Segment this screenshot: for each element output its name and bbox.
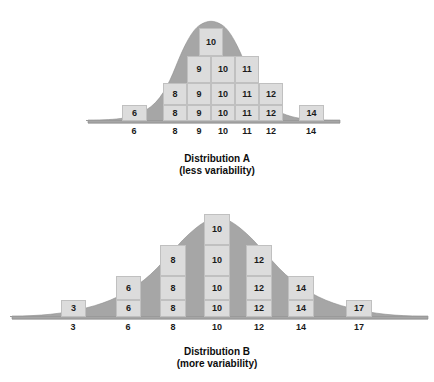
axis-tick-label: 8 [170,323,175,332]
distribution-b-caption: Distribution B (more variability) [0,346,434,370]
distribution-a-caption: Distribution A (less variability) [0,153,434,177]
distribution-a-caption-title: Distribution A [184,153,250,164]
data-block: 11 [235,56,259,83]
data-block: 3 [61,300,86,317]
data-block: 12 [246,300,272,317]
axis-tick-label: 10 [212,323,222,332]
data-block: 10 [204,276,230,300]
axis-tick-label: 11 [242,127,252,136]
data-block: 10 [204,300,230,317]
axis-tick-label: 12 [266,127,276,136]
data-block: 6 [122,105,147,121]
data-block: 10 [204,214,230,245]
axis-tick-label: 3 [70,323,75,332]
data-block: 14 [288,276,314,300]
data-block: 17 [346,300,372,317]
data-block: 8 [160,276,186,300]
data-block: 10 [211,105,235,121]
axis-tick-label: 6 [131,127,136,136]
distribution-a-plot: 6 8 9 10 11 12 14 8 9 10 11 12 9 10 11 1… [0,0,434,140]
axis-tick-label: 14 [296,323,306,332]
data-block: 11 [235,83,259,105]
data-block: 10 [199,28,223,56]
distribution-a-figure: 6 8 9 10 11 12 14 8 9 10 11 12 9 10 11 1… [0,0,434,186]
axis-tick-label: 6 [125,323,130,332]
data-block: 12 [246,245,272,276]
data-block: 6 [116,276,141,300]
distribution-b-caption-title: Distribution B [184,346,250,357]
data-block: 14 [299,105,324,121]
data-block: 8 [163,105,187,121]
data-block: 9 [187,56,211,83]
data-block: 12 [259,83,283,105]
axis-tick-label: 14 [306,127,316,136]
data-block: 8 [160,300,186,317]
distribution-b-plot: 3 6 8 10 12 14 17 6 8 10 12 14 8 10 12 1… [0,196,434,336]
data-block: 10 [211,83,235,105]
data-block: 9 [187,105,211,121]
data-block: 14 [288,300,314,317]
axis-tick-label: 17 [354,323,364,332]
axis-tick-label: 10 [218,127,228,136]
data-block: 12 [246,276,272,300]
data-block: 8 [160,245,186,276]
distribution-a-caption-subtitle: (less variability) [0,165,434,177]
distribution-b-caption-subtitle: (more variability) [0,358,434,370]
data-block: 10 [204,245,230,276]
data-block: 6 [116,300,141,317]
distribution-b-figure: 3 6 8 10 12 14 17 6 8 10 12 14 8 10 12 1… [0,196,434,382]
data-block: 11 [235,105,259,121]
data-block: 10 [211,56,235,83]
axis-tick-label: 12 [254,323,264,332]
axis-tick-label: 8 [172,127,177,136]
axis-tick-label: 9 [196,127,201,136]
data-block: 12 [259,105,283,121]
data-block: 8 [163,83,187,105]
data-block: 9 [187,83,211,105]
